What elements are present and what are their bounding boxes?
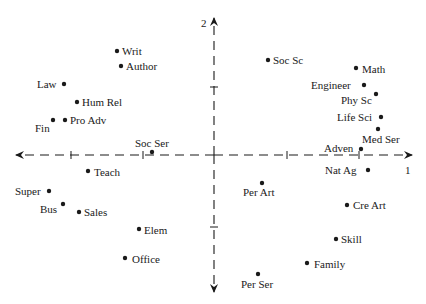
svg-text:Math: Math bbox=[362, 63, 386, 75]
svg-text:Nat Ag: Nat Ag bbox=[325, 164, 357, 176]
point-soc-sc: Soc Sc bbox=[266, 54, 304, 66]
point-adven: Adven bbox=[324, 142, 363, 154]
point-hum-rel: Hum Rel bbox=[75, 96, 122, 108]
point-skill: Skill bbox=[334, 233, 362, 245]
point-engineer: Engineer bbox=[311, 79, 366, 91]
svg-text:Sales: Sales bbox=[84, 206, 107, 218]
point-super: Super bbox=[15, 185, 51, 197]
svg-text:Fin: Fin bbox=[35, 122, 50, 134]
svg-text:Law: Law bbox=[37, 78, 57, 90]
y-axis-label: 2 bbox=[201, 17, 207, 29]
point-med-ser: Med Ser bbox=[362, 127, 400, 145]
svg-text:Family: Family bbox=[314, 258, 346, 270]
point-cre-art: Cre Art bbox=[345, 199, 386, 211]
point-per-art: Per Art bbox=[243, 181, 274, 198]
svg-text:Soc Ser: Soc Ser bbox=[135, 137, 169, 149]
point-family: Family bbox=[305, 258, 346, 270]
data-points: Writ Author Law Hum Rel Fin Pro Adv Soc … bbox=[15, 45, 400, 290]
svg-text:Phy Sc: Phy Sc bbox=[341, 94, 372, 106]
svg-text:Author: Author bbox=[126, 60, 158, 72]
point-teach: Teach bbox=[86, 166, 121, 178]
svg-text:Pro Adv: Pro Adv bbox=[70, 114, 107, 126]
svg-text:Cre Art: Cre Art bbox=[353, 199, 386, 211]
point-nat-ag: Nat Ag bbox=[325, 164, 370, 176]
svg-text:Soc Sc: Soc Sc bbox=[273, 54, 303, 66]
svg-text:Hum Rel: Hum Rel bbox=[82, 96, 122, 108]
svg-text:Med Ser: Med Ser bbox=[362, 133, 400, 145]
x-axis-label: 1 bbox=[405, 164, 411, 176]
point-fin: Fin bbox=[35, 118, 55, 134]
svg-text:Adven: Adven bbox=[324, 142, 354, 154]
point-author: Author bbox=[119, 60, 158, 72]
svg-text:Elem: Elem bbox=[144, 224, 168, 236]
svg-text:Life Sci: Life Sci bbox=[337, 111, 372, 123]
point-office: Office bbox=[123, 253, 160, 265]
point-bus: Bus bbox=[40, 202, 65, 215]
point-writ: Writ bbox=[115, 45, 142, 57]
svg-text:Per Ser: Per Ser bbox=[241, 278, 273, 290]
svg-text:Teach: Teach bbox=[94, 166, 121, 178]
svg-text:Per Art: Per Art bbox=[243, 186, 274, 198]
point-law: Law bbox=[37, 78, 66, 90]
point-life-sci: Life Sci bbox=[337, 111, 383, 123]
point-sales: Sales bbox=[77, 206, 107, 218]
point-per-ser: Per Ser bbox=[241, 272, 273, 290]
point-elem: Elem bbox=[137, 224, 168, 236]
point-phy-sc: Phy Sc bbox=[341, 92, 378, 106]
svg-text:Office: Office bbox=[132, 253, 160, 265]
svg-text:Bus: Bus bbox=[40, 203, 57, 215]
svg-text:Writ: Writ bbox=[122, 45, 142, 57]
svg-text:Super: Super bbox=[15, 185, 41, 197]
point-math: Math bbox=[354, 63, 386, 75]
svg-text:Skill: Skill bbox=[341, 233, 362, 245]
svg-text:Engineer: Engineer bbox=[311, 79, 351, 91]
scatter-plot: 1 2 Writ Author Law Hum Rel Fin Pro Adv … bbox=[0, 0, 426, 304]
point-pro-adv: Pro Adv bbox=[63, 114, 107, 126]
point-soc-ser: Soc Ser bbox=[135, 137, 169, 154]
